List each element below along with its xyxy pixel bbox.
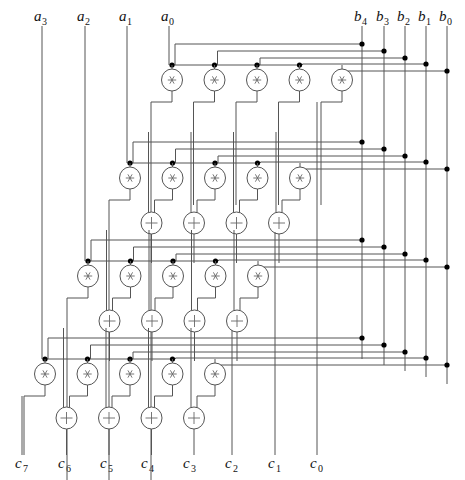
multiply-node [163,265,184,287]
partial-product-line [282,189,300,212]
svg-text:0: 0 [447,16,452,27]
svg-text:c: c [141,455,148,471]
outputs_c-label-6: c6 [58,455,71,474]
junction-dot [444,68,449,73]
outputs_c-label-3: c3 [183,455,196,474]
svg-text:2: 2 [405,16,410,27]
array-multiplier-diagram: a3a2a1a0b4b3b2b1b0c7c6c5c4c3c2c1c0 [0,0,465,480]
svg-text:a: a [119,8,127,24]
junction-dot [423,61,428,66]
multiply-node [205,363,226,385]
svg-text:c: c [268,455,275,471]
partial-product-line [240,189,258,212]
junction-dot [359,335,364,340]
svg-text:b: b [376,8,384,24]
b-feed-line [340,71,447,74]
adder-node [141,212,162,234]
junction-dot [444,362,449,367]
junction-dot [402,55,407,60]
inputs_b-label-2: b2 [397,8,410,27]
adder-node [227,310,248,332]
multiply-node [120,265,141,287]
multiply-node [248,265,269,287]
partial-product-line [198,287,216,310]
junction-dot [444,264,449,269]
junction-dot [402,349,407,354]
partial-product-line [113,287,131,310]
adder-node [99,310,120,332]
inputs_b-label-0: b0 [439,8,452,27]
svg-text:b: b [354,8,362,24]
b-feed-line [213,365,447,368]
adder-node [99,407,120,429]
multiply-node [78,265,99,287]
partial-product-line [155,287,173,310]
svg-text:4: 4 [362,16,367,27]
junction-dot [381,342,386,347]
multiply-node [162,167,183,189]
b-feed-line [133,142,362,163]
svg-text:3: 3 [191,463,196,474]
multiply-node [205,167,226,189]
outputs_c-label-1: c1 [268,455,281,474]
svg-text:0: 0 [169,16,174,27]
inputs_a-label-2: a2 [77,8,90,27]
junction-dot [359,139,364,144]
junction-dot [359,237,364,242]
svg-text:1: 1 [127,16,132,27]
outputs_c-label-2: c2 [225,455,238,474]
adder-node [141,407,162,429]
junction-dot [381,48,386,53]
partial-product-line [112,385,130,407]
junction-dot [381,146,386,151]
svg-text:b: b [397,8,405,24]
multiply-node [332,69,353,91]
adder-node [56,407,77,429]
junction-dot [381,244,386,249]
svg-text:7: 7 [23,463,28,474]
partial-product-line [197,385,215,407]
svg-text:1: 1 [276,463,281,474]
multiply-node [205,265,226,287]
svg-text:2: 2 [233,463,238,474]
svg-text:a: a [77,8,85,24]
junction-dot [402,251,407,256]
svg-text:c: c [183,455,190,471]
junction-dot [402,153,407,158]
adder-node [184,407,205,429]
b-feed-line [256,267,447,270]
diagram-canvas: a3a2a1a0b4b3b2b1b0c7c6c5c4c3c2c1c0 [0,0,465,480]
multiply-node [120,363,141,385]
outputs_c-label-0: c0 [310,455,323,474]
svg-text:c: c [310,455,317,471]
adder-node [269,212,290,234]
svg-text:c: c [100,455,107,471]
adder-node [184,310,205,332]
junction-dot [423,355,428,360]
b-feed-line [91,240,362,261]
inputs_a-label-1: a1 [119,8,132,27]
svg-text:c: c [58,455,65,471]
outputs_c-label-5: c5 [100,455,113,474]
svg-text:a: a [34,8,42,24]
multiply-node [247,167,268,189]
partial-product-line [24,385,45,455]
outputs_c-label-4: c4 [141,455,154,474]
b-feed-line [261,162,427,163]
multiply-node [35,363,56,385]
multiply-node [247,69,268,91]
junction-dot [359,41,364,46]
adder-node [142,310,163,332]
b-feed-line [298,169,447,172]
svg-text:c: c [225,455,232,471]
svg-text:0: 0 [318,463,323,474]
inputs_b-label-1: b1 [418,8,431,27]
b-feed-line [175,44,362,65]
adder-node [226,212,247,234]
outputs_c-label-7: c7 [15,455,28,474]
multiply-node [162,69,183,91]
partial-product-line [70,385,88,407]
multiply-node [204,69,225,91]
inputs_a-label-3: a3 [34,8,47,27]
junction-dot [423,159,428,164]
